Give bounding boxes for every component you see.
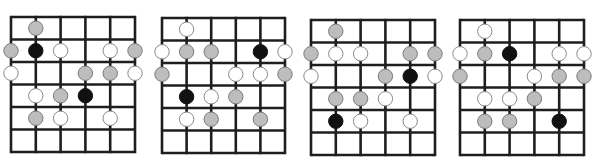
white-note-dot xyxy=(179,22,193,36)
fretboard-diagram-3 xyxy=(311,20,435,155)
white-note-dot xyxy=(453,47,467,61)
gray-note-dot xyxy=(204,45,218,59)
gray-note-dot xyxy=(4,44,18,58)
gray-note-dot xyxy=(278,67,292,81)
white-note-dot xyxy=(353,47,367,61)
white-note-dot xyxy=(179,112,193,126)
black-note-dot xyxy=(329,114,343,128)
white-note-dot xyxy=(502,92,516,106)
white-note-dot xyxy=(329,47,343,61)
fretboard-diagram-2 xyxy=(162,18,285,153)
gray-note-dot xyxy=(329,92,343,106)
gray-note-dot xyxy=(253,112,267,126)
white-note-dot xyxy=(103,44,117,58)
gray-note-dot xyxy=(103,66,117,80)
black-note-dot xyxy=(179,90,193,104)
white-note-dot xyxy=(253,67,267,81)
white-note-dot xyxy=(478,92,492,106)
fretboard-diagram-1 xyxy=(11,17,135,152)
gray-note-dot xyxy=(502,114,516,128)
white-note-dot xyxy=(378,92,392,106)
black-note-dot xyxy=(552,114,566,128)
white-note-dot xyxy=(403,114,417,128)
black-note-dot xyxy=(253,45,267,59)
gray-note-dot xyxy=(29,21,43,35)
white-note-dot xyxy=(128,66,142,80)
white-note-dot xyxy=(4,66,18,80)
white-note-dot xyxy=(527,69,541,83)
gray-note-dot xyxy=(428,47,442,61)
gray-note-dot xyxy=(378,69,392,83)
white-note-dot xyxy=(552,47,566,61)
white-note-dot xyxy=(155,45,169,59)
gray-note-dot xyxy=(204,112,218,126)
white-note-dot xyxy=(478,24,492,38)
fretboard-grid xyxy=(460,20,584,155)
white-note-dot xyxy=(103,111,117,125)
white-note-dot xyxy=(29,89,43,103)
gray-note-dot xyxy=(403,47,417,61)
gray-note-dot xyxy=(478,47,492,61)
gray-note-dot xyxy=(155,67,169,81)
gray-note-dot xyxy=(527,92,541,106)
gray-note-dot xyxy=(53,89,67,103)
gray-note-dot xyxy=(78,66,92,80)
cropped-caption xyxy=(0,0,592,6)
white-note-dot xyxy=(278,45,292,59)
black-note-dot xyxy=(403,69,417,83)
gray-note-dot xyxy=(552,69,566,83)
black-note-dot xyxy=(502,47,516,61)
gray-note-dot xyxy=(229,90,243,104)
gray-note-dot xyxy=(329,24,343,38)
white-note-dot xyxy=(577,47,591,61)
white-note-dot xyxy=(204,90,218,104)
gray-note-dot xyxy=(304,47,318,61)
white-note-dot xyxy=(428,69,442,83)
gray-note-dot xyxy=(577,69,591,83)
white-note-dot xyxy=(304,69,318,83)
gray-note-dot xyxy=(29,111,43,125)
black-note-dot xyxy=(29,44,43,58)
gray-note-dot xyxy=(478,114,492,128)
white-note-dot xyxy=(229,67,243,81)
white-note-dot xyxy=(353,114,367,128)
gray-note-dot xyxy=(179,45,193,59)
white-note-dot xyxy=(53,111,67,125)
fretboard-grid xyxy=(11,17,135,152)
gray-note-dot xyxy=(353,92,367,106)
gray-note-dot xyxy=(128,44,142,58)
fretboard-grid xyxy=(311,20,435,155)
black-note-dot xyxy=(78,89,92,103)
white-note-dot xyxy=(53,44,67,58)
gray-note-dot xyxy=(453,69,467,83)
fretboard-grid xyxy=(162,18,285,153)
fretboard-diagram-4 xyxy=(460,20,584,155)
